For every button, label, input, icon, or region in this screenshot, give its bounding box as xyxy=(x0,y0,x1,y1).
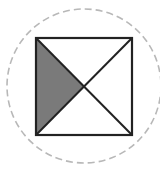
shaded-left-triangle xyxy=(36,38,84,135)
diagram-figure xyxy=(0,0,160,171)
diagram-canvas xyxy=(0,0,160,171)
